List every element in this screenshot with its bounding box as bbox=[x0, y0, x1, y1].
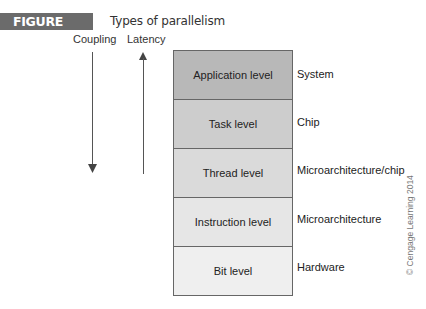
copyright-notice: © Cengage Learning 2014 bbox=[405, 175, 415, 275]
latency-label: Latency bbox=[127, 33, 166, 45]
scope-label-hardware: Hardware bbox=[297, 261, 345, 273]
parallelism-stack: Application level Task level Thread leve… bbox=[173, 50, 293, 296]
level-block-bit: Bit level bbox=[174, 247, 292, 296]
level-block-task: Task level bbox=[174, 100, 292, 149]
scope-label-microarchitecture: Microarchitecture bbox=[297, 213, 381, 225]
level-block-thread: Thread level bbox=[174, 149, 292, 198]
scope-label-system: System bbox=[297, 68, 334, 80]
figure-title: Types of parallelism bbox=[110, 13, 225, 30]
coupling-label: Coupling bbox=[73, 33, 116, 45]
scope-label-chip: Chip bbox=[297, 116, 320, 128]
figure-badge: FIGURE 13.1 bbox=[0, 13, 93, 30]
level-block-instruction: Instruction level bbox=[174, 198, 292, 247]
scope-label-microarchitecture-chip: Microarchitecture/chip bbox=[297, 164, 405, 176]
level-block-application: Application level bbox=[174, 51, 292, 100]
